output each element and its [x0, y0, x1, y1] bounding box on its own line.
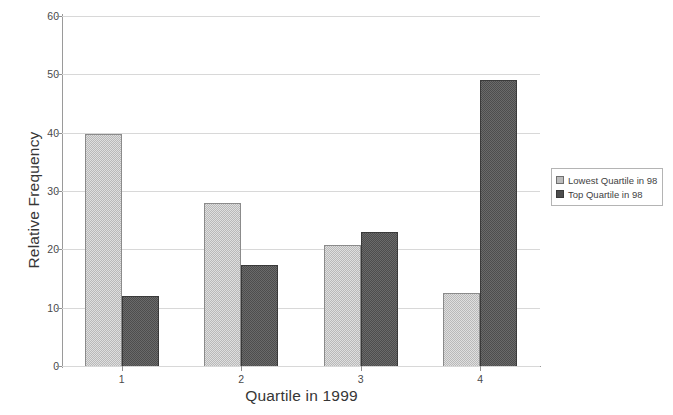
y-tick-mark: [56, 16, 62, 17]
x-tick-mark: [122, 366, 123, 371]
legend-label-lowest: Lowest Quartile in 98: [568, 175, 657, 186]
y-tick-label: 50: [31, 68, 59, 80]
x-tick-label: 4: [460, 373, 500, 385]
bar: [361, 232, 398, 366]
bar: [85, 134, 122, 366]
y-tick-label: 0: [31, 360, 59, 372]
y-tick-mark: [56, 191, 62, 192]
gridline: [62, 366, 540, 367]
y-tick-mark: [56, 74, 62, 75]
bar-group: [324, 16, 398, 366]
bar: [204, 203, 241, 366]
y-tick-label: 10: [31, 302, 59, 314]
legend-item-top-quartile: Top Quartile in 98: [556, 187, 657, 201]
x-tick-mark: [241, 366, 242, 371]
y-tick-mark: [56, 308, 62, 309]
bar: [443, 293, 480, 366]
y-tick-mark: [56, 366, 62, 367]
legend-item-lowest-quartile: Lowest Quartile in 98: [556, 173, 657, 187]
legend-label-top: Top Quartile in 98: [568, 189, 642, 200]
bar: [324, 245, 361, 366]
x-tick-mark: [480, 366, 481, 371]
y-tick-label: 60: [31, 10, 59, 22]
y-tick-mark: [56, 133, 62, 134]
y-tick-label: 30: [31, 185, 59, 197]
x-tick-label: 2: [221, 373, 261, 385]
bar: [480, 80, 517, 366]
cropped-caption-sliver: [0, 408, 673, 415]
x-axis-title: Quartile in 1999: [0, 387, 603, 405]
y-axis-title: Relative Frequency: [25, 70, 43, 330]
x-tick-label: 1: [102, 373, 142, 385]
y-tick-label: 20: [31, 243, 59, 255]
x-tick-mark: [361, 366, 362, 371]
legend-swatch-icon-lowest: [556, 176, 564, 184]
x-tick-label: 3: [341, 373, 381, 385]
y-tick-label: 40: [31, 127, 59, 139]
bar-group: [443, 16, 517, 366]
bar: [122, 296, 159, 366]
bar-chart: Relative Frequency 0102030405060 1234 Qu…: [0, 0, 673, 415]
bar: [241, 265, 278, 366]
chart-legend: Lowest Quartile in 98 Top Quartile in 98: [551, 168, 663, 206]
bar-group: [85, 16, 159, 366]
legend-swatch-icon-top: [556, 190, 564, 198]
y-tick-mark: [56, 249, 62, 250]
bar-group: [204, 16, 278, 366]
